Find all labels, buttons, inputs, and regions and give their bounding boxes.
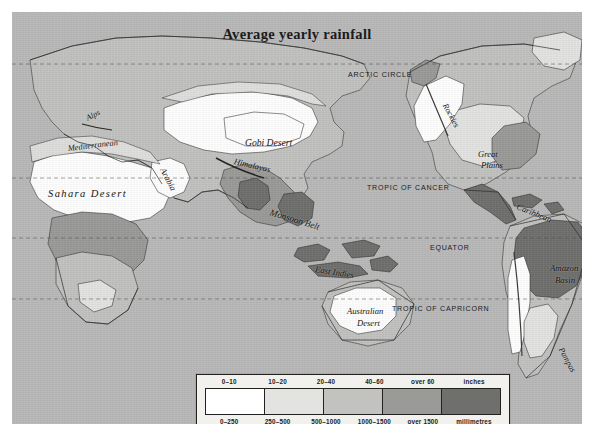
latitude-label-equator: EQUATOR xyxy=(430,244,470,252)
legend-unit-millimetres: millimetres xyxy=(447,418,501,424)
legend-inches-row: 0–10 10–20 20–40 40–60 over 60 inches xyxy=(197,375,509,388)
place-label-basin: Basin xyxy=(555,276,575,285)
legend-unit-inches: inches xyxy=(447,378,501,385)
legend-swatch-3 xyxy=(383,389,442,414)
legend-inches-2: 20–40 xyxy=(302,378,350,385)
place-label-plains: Plains xyxy=(481,161,503,170)
legend-swatches xyxy=(205,388,501,415)
place-label-sahara-desert: Sahara Desert xyxy=(48,188,127,199)
legend-swatch-1 xyxy=(265,389,324,414)
legend-mm-3: 1000–1500 xyxy=(350,418,398,424)
legend-swatch-0 xyxy=(206,389,265,414)
region-central-america xyxy=(464,184,516,224)
latitude-label-tropic-of-capricorn: TROPIC OF CAPRICORN xyxy=(392,305,489,313)
legend-mm-2: 500–1000 xyxy=(302,418,350,424)
place-label-amazon: Amazon xyxy=(550,264,578,273)
legend-millimetres-row: 0–250 250–500 500–1000 1000–1500 over 15… xyxy=(197,415,509,424)
place-label-great: Great xyxy=(478,150,498,159)
latitude-label-tropic-of-cancer: TROPIC OF CANCER xyxy=(367,184,450,192)
place-label-australian: Australian xyxy=(347,307,383,316)
page-title: Average yearly rainfall xyxy=(12,26,582,43)
legend-mm-4: over 1500 xyxy=(399,418,447,424)
legend-mm-0: 0–250 xyxy=(205,418,253,424)
map-plate: Average yearly rainfall ARCTIC CIRCLETRO… xyxy=(12,12,582,424)
legend-swatch-2 xyxy=(324,389,383,414)
legend-inches-1: 10–20 xyxy=(253,378,301,385)
legend-inches-3: 40–60 xyxy=(350,378,398,385)
legend-inches-0: 0–10 xyxy=(205,378,253,385)
place-label-gobi-desert: Gobi Desert xyxy=(245,138,292,148)
legend-inches-4: over 60 xyxy=(399,378,447,385)
legend: 0–10 10–20 20–40 40–60 over 60 inches 0–… xyxy=(196,374,510,424)
latitude-label-arctic-circle: ARCTIC CIRCLE xyxy=(348,71,412,79)
map-page: Average yearly rainfall ARCTIC CIRCLETRO… xyxy=(0,0,598,436)
legend-swatch-4 xyxy=(442,389,500,414)
place-label-desert: Desert xyxy=(357,319,380,328)
legend-mm-1: 250–500 xyxy=(253,418,301,424)
